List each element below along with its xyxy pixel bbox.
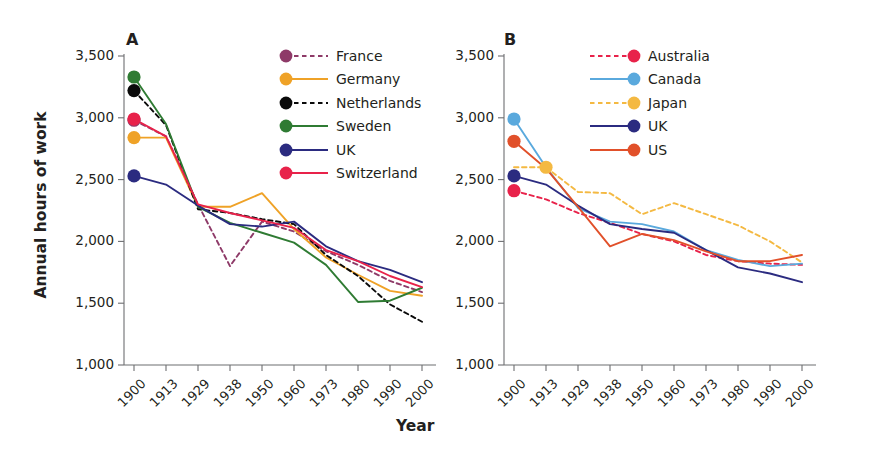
legend-swatch-icon bbox=[588, 93, 642, 113]
series-marker-japan bbox=[539, 161, 552, 174]
legend-swatch-icon bbox=[276, 116, 330, 136]
y-tick-label: 2,500 bbox=[42, 171, 114, 187]
legend-label: Sweden bbox=[336, 118, 391, 134]
y-tick-label: 3,000 bbox=[422, 109, 494, 125]
legend-item-sweden[interactable]: Sweden bbox=[276, 115, 421, 139]
series-marker-sweden bbox=[127, 70, 140, 83]
legend-item-canada[interactable]: Canada bbox=[588, 68, 710, 92]
legend-item-uk[interactable]: UK bbox=[588, 115, 710, 139]
series-marker-netherlands bbox=[127, 84, 140, 97]
series-line-uk bbox=[514, 176, 802, 282]
legend-swatch-icon bbox=[276, 46, 330, 66]
legend-label: France bbox=[336, 48, 383, 64]
legend-swatch-icon bbox=[588, 116, 642, 136]
panel-a: Annual hours of work A FranceGermanyNeth… bbox=[0, 0, 460, 460]
legend-item-netherlands[interactable]: Netherlands bbox=[276, 91, 421, 115]
legend-label: Canada bbox=[648, 71, 701, 87]
legend-swatch-icon bbox=[276, 93, 330, 113]
y-tick-label: 2,500 bbox=[422, 171, 494, 187]
legend-item-us[interactable]: US bbox=[588, 138, 710, 162]
x-axis-title: Year bbox=[396, 417, 434, 435]
y-tick-label: 1,000 bbox=[42, 356, 114, 372]
legend-label: Germany bbox=[336, 71, 400, 87]
series-marker-uk bbox=[127, 169, 140, 182]
legend-label: Australia bbox=[648, 48, 710, 64]
legend-item-germany[interactable]: Germany bbox=[276, 68, 421, 92]
series-marker-uk bbox=[507, 169, 520, 182]
legend-swatch-icon bbox=[276, 163, 330, 183]
legend-swatch-icon bbox=[588, 69, 642, 89]
y-tick-label: 3,000 bbox=[42, 109, 114, 125]
legend-label: US bbox=[648, 142, 667, 158]
y-tick-label: 1,000 bbox=[422, 356, 494, 372]
legend-swatch-icon bbox=[588, 46, 642, 66]
y-tick-label: 2,000 bbox=[422, 232, 494, 248]
legend-item-japan[interactable]: Japan bbox=[588, 91, 710, 115]
figure-root: Annual hours of work A FranceGermanyNeth… bbox=[0, 0, 872, 460]
legend-label: Switzerland bbox=[336, 165, 418, 181]
y-tick-label: 3,500 bbox=[422, 47, 494, 63]
y-tick-label: 1,500 bbox=[422, 294, 494, 310]
series-marker-switzerland bbox=[127, 112, 140, 125]
series-marker-australia bbox=[507, 184, 520, 197]
series-marker-germany bbox=[127, 131, 140, 144]
legend-item-switzerland[interactable]: Switzerland bbox=[276, 162, 421, 186]
panel-a-legend: FranceGermanyNetherlandsSwedenUKSwitzerl… bbox=[276, 44, 421, 185]
legend-item-australia[interactable]: Australia bbox=[588, 44, 710, 68]
legend-label: Netherlands bbox=[336, 95, 421, 111]
legend-swatch-icon bbox=[588, 140, 642, 160]
y-tick-label: 1,500 bbox=[42, 294, 114, 310]
legend-label: UK bbox=[336, 142, 355, 158]
panel-b: B AustraliaCanadaJapanUKUS 1,0001,5002,0… bbox=[440, 0, 872, 460]
series-line-uk bbox=[134, 176, 422, 282]
legend-label: UK bbox=[648, 118, 667, 134]
y-tick-label: 3,500 bbox=[42, 47, 114, 63]
panel-b-legend: AustraliaCanadaJapanUKUS bbox=[588, 44, 710, 162]
legend-swatch-icon bbox=[276, 69, 330, 89]
legend-label: Japan bbox=[648, 95, 687, 111]
y-tick-label: 2,000 bbox=[42, 232, 114, 248]
series-marker-us bbox=[507, 135, 520, 148]
series-marker-canada bbox=[507, 112, 520, 125]
legend-swatch-icon bbox=[276, 140, 330, 160]
legend-item-france[interactable]: France bbox=[276, 44, 421, 68]
legend-item-uk[interactable]: UK bbox=[276, 138, 421, 162]
